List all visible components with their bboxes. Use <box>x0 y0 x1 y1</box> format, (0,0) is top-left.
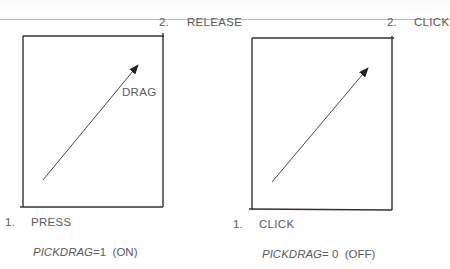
right-step2-number: 2. <box>387 16 397 28</box>
setting-state: (OFF) <box>345 248 376 260</box>
setting-name: PICKDRAG <box>33 246 93 258</box>
right-step1-label: CLICK <box>259 218 294 230</box>
left-step1-number: 1. <box>5 216 15 228</box>
setting-state: (ON) <box>113 246 138 258</box>
left-step2-number: 2. <box>159 16 169 28</box>
left-pickdrag-setting: PICKDRAG=1 (ON) <box>33 246 138 258</box>
left-step1-label: PRESS <box>31 216 72 228</box>
left-step2-label: RELEASE <box>187 16 242 28</box>
left-drag-arrow-icon <box>43 65 138 180</box>
drag-label: DRAG <box>122 86 156 98</box>
setting-name: PICKDRAG <box>262 248 322 260</box>
right-step2-label: CLICK <box>414 16 449 28</box>
right-pickdrag-setting: PICKDRAG= 0 (OFF) <box>262 248 375 260</box>
setting-value: =1 <box>93 246 106 258</box>
setting-value: = 0 <box>322 248 338 260</box>
right-arrow-icon <box>272 68 368 182</box>
right-step1-number: 1. <box>233 218 243 230</box>
pickdrag-diagram <box>0 0 450 269</box>
